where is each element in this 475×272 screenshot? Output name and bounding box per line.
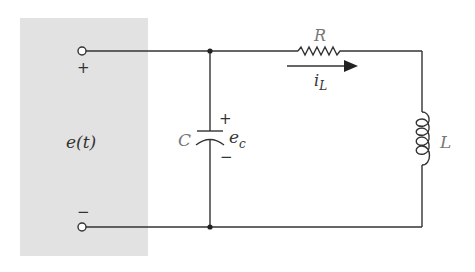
source-plus-sign: +	[77, 59, 90, 77]
current-arrow-head	[344, 60, 358, 72]
current-label: iL	[314, 71, 327, 93]
junction-dot-bottom	[207, 224, 212, 229]
resistor-label: R	[313, 26, 326, 45]
inductor-label: L	[439, 132, 451, 152]
source-minus-sign: −	[77, 203, 90, 221]
capacitor-plus-sign: +	[219, 110, 232, 128]
inductor-symbol	[416, 112, 429, 165]
capacitor-minus-sign: −	[220, 148, 233, 166]
positive-terminal	[78, 47, 86, 55]
negative-terminal	[78, 223, 86, 231]
circuit-diagram: + − e(t) C + − ec R iL L	[0, 0, 475, 272]
junction-dot-top	[207, 48, 212, 53]
source-label: e(t)	[66, 132, 96, 152]
resistor-symbol	[298, 47, 342, 55]
capacitor-label: C	[178, 130, 191, 150]
